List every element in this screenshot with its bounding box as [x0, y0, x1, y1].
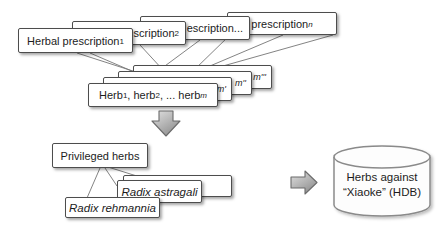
herb-subscript: 1 — [123, 92, 127, 100]
database-label: Herbs against “Xiaoke” (HDB) — [334, 170, 430, 200]
diagram-canvas: prescription n escription... scription 2… — [0, 0, 444, 229]
connector-line — [105, 168, 117, 186]
prescription-subscript: 1 — [119, 38, 123, 46]
prescription-subscript: 2 — [175, 30, 179, 38]
prescription-label: scription — [134, 27, 175, 39]
herb-list-text: , herb — [127, 89, 155, 101]
herb-list-box: Herb1, herb2, ... herb m — [88, 83, 218, 107]
prescription-box-1: Herbal prescription 1 — [18, 28, 133, 53]
herb-list-text: , ... herb — [160, 89, 200, 101]
herb-box-label: m' — [217, 84, 226, 94]
herb-example-label: Radix astragali — [121, 186, 197, 198]
prescription-subscript: n — [308, 21, 312, 29]
database-label-line1: Herbs against — [334, 170, 430, 185]
privileged-herbs-box: Privileged herbs — [52, 143, 148, 168]
prescription-label: escription... — [187, 22, 243, 34]
database-label-line2: “Xiaoke” (HDB) — [334, 185, 430, 200]
herb-subscript: 2 — [155, 92, 159, 100]
connector-line — [87, 168, 100, 198]
prescription-label: Herbal prescription — [27, 35, 119, 47]
prescription-label: prescription — [251, 18, 308, 30]
privileged-herbs-label: Privileged herbs — [61, 150, 140, 162]
herb-example-box-rehmannia: Radix rehmannia — [65, 197, 160, 218]
herb-list-text: Herb — [99, 89, 123, 101]
right-block-arrow-icon — [291, 171, 317, 194]
herb-box-label: m''' — [253, 72, 266, 82]
herb-subscript: m — [200, 92, 207, 100]
database-cylinder-top — [334, 146, 430, 168]
down-block-arrow-icon — [152, 111, 180, 136]
herb-example-label: Radix rehmannia — [69, 202, 156, 214]
herb-box-label: m'' — [235, 78, 246, 88]
